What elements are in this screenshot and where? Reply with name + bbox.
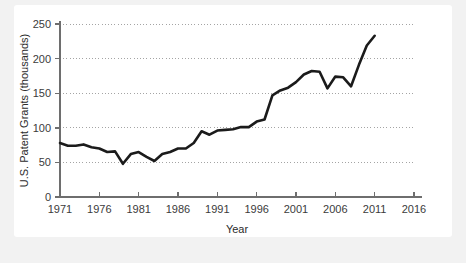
- x-tick-label-2006: 2006: [323, 203, 347, 215]
- x-axis-title: Year: [226, 223, 249, 235]
- y-tick-label-100: 100: [33, 122, 51, 134]
- data-series-line: [60, 36, 375, 164]
- x-tick-label-1971: 1971: [48, 203, 72, 215]
- x-tick-labels-group: 1971197619811986199119962001200620112016: [48, 203, 426, 215]
- line-chart: 050100150200250 197119761981198619911996…: [14, 5, 452, 237]
- y-tick-label-0: 0: [45, 191, 51, 203]
- y-tick-label-200: 200: [33, 53, 51, 65]
- y-axis-title: U.S. Patent Grants (thousands): [18, 34, 30, 187]
- y-tick-label-50: 50: [39, 156, 51, 168]
- x-tick-label-1996: 1996: [244, 203, 268, 215]
- chart-svg: 050100150200250 197119761981198619911996…: [14, 5, 452, 237]
- x-tick-label-2016: 2016: [402, 203, 426, 215]
- x-tick-label-1986: 1986: [166, 203, 190, 215]
- x-tick-label-1991: 1991: [205, 203, 229, 215]
- x-tick-label-1981: 1981: [126, 203, 150, 215]
- x-tick-label-2011: 2011: [363, 203, 387, 215]
- y-tick-labels-group: 050100150200250: [33, 18, 51, 203]
- x-tick-label-1976: 1976: [87, 203, 111, 215]
- figure-card: 050100150200250 197119761981198619911996…: [14, 5, 452, 237]
- y-tick-label-250: 250: [33, 18, 51, 30]
- gridlines-group: [60, 24, 414, 162]
- y-tick-label-150: 150: [33, 87, 51, 99]
- x-tick-label-2001: 2001: [284, 203, 308, 215]
